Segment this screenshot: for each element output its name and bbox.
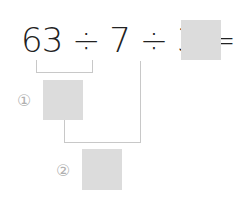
bracket-bottom xyxy=(36,72,93,73)
answer-box[interactable] xyxy=(181,20,221,60)
step-1-marker: ① xyxy=(17,93,31,109)
step-2-box[interactable] xyxy=(82,149,122,190)
bracket-right xyxy=(92,60,93,73)
connector-bottom xyxy=(64,142,141,143)
connector-right xyxy=(140,61,141,143)
bracket-left xyxy=(36,60,37,72)
step-1-box[interactable] xyxy=(43,80,83,120)
connector-left xyxy=(64,120,65,142)
step-2-marker: ② xyxy=(56,163,70,179)
